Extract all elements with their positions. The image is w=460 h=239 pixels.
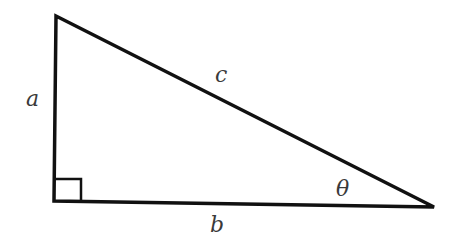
triangle xyxy=(54,16,434,207)
label-side-a: a xyxy=(26,86,39,111)
label-angle-theta: θ xyxy=(336,176,349,201)
right-angle-marker xyxy=(54,179,81,201)
label-side-b: b xyxy=(210,212,224,237)
label-side-c: c xyxy=(215,62,227,87)
right-triangle-diagram: a c b θ xyxy=(0,0,460,239)
